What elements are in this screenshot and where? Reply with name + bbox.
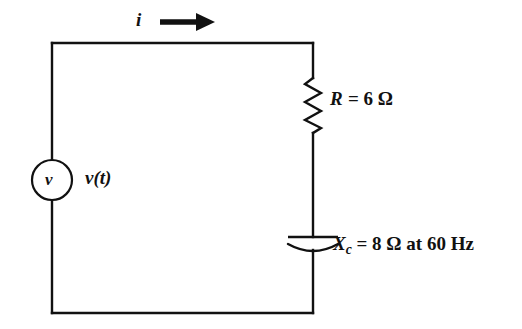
resistor-unit: Ω [378,88,393,109]
capacitor-label: Xc = 8 Ω at 60 Hz [333,234,474,257]
resistor-zigzag-icon [305,78,321,133]
voltage-source-label: v(t) [85,168,111,187]
current-label: i [136,10,141,29]
capacitor-condition: at 60 Hz [406,233,474,254]
resistor-value: 6 [364,88,374,109]
resistor-label: R = 6 Ω [330,89,393,108]
capacitor-unit: Ω [386,233,401,254]
capacitor-symbol: X [333,233,346,254]
voltage-source-symbol: v [45,171,53,188]
capacitor-value: 8 [372,233,382,254]
resistor-symbol: R [330,88,343,109]
circuit-schematic-svg [0,0,522,329]
circuit-diagram: i v v(t) R = 6 Ω Xc = 8 Ω at 60 Hz [0,0,522,329]
capacitor-equals-sign: = [357,233,368,254]
resistor-equals-sign: = [348,88,359,109]
current-arrow-head-icon [196,13,215,31]
